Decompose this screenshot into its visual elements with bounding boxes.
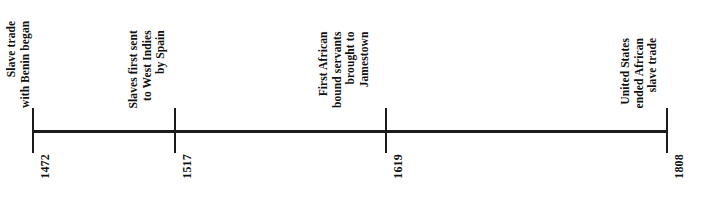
timeline-tick-1517	[174, 108, 176, 153]
timeline-axis-line	[32, 130, 668, 133]
timeline-event-label-line: ended African	[632, 37, 646, 108]
timeline-year-label-1619: 1619	[392, 154, 404, 179]
timeline-event-label-line: Jamestown	[358, 32, 372, 109]
timeline-event-label-line: United States	[619, 37, 633, 108]
timeline-tick-1472	[32, 108, 34, 153]
timeline-year-label-1808: 1808	[673, 154, 685, 179]
timeline-event-label-1619: First Africanbound servantsbrought toJam…	[317, 32, 371, 109]
timeline-event-label-line: to West Indies	[140, 30, 154, 108]
timeline-event-label-1472: Slave tradewith Benin began	[5, 21, 32, 108]
timeline-year-label-1472: 1472	[39, 154, 51, 179]
timeline-event-label-1517: Slaves first sentto West Indiesby Spain	[127, 30, 168, 108]
timeline-event-label-1808: United Statesended Africanslave trade	[619, 37, 660, 108]
timeline-tick-1619	[385, 108, 387, 153]
timeline-year-label-1517: 1517	[181, 154, 193, 179]
timeline-event-label-line: brought to	[344, 32, 358, 109]
timeline-event-label-line: Slaves first sent	[127, 30, 141, 108]
timeline-event-label-line: bound servants	[331, 32, 345, 109]
timeline-event-label-line: First African	[317, 32, 331, 109]
timeline-event-label-line: slave trade	[646, 37, 660, 108]
timeline-event-label-line: with Benin began	[19, 21, 33, 108]
timeline-event-label-line: by Spain	[154, 30, 168, 108]
timeline-figure: Slave tradewith Benin began1472Slaves fi…	[0, 0, 705, 203]
timeline-tick-1808	[666, 108, 668, 153]
timeline-event-label-line: Slave trade	[5, 21, 19, 108]
